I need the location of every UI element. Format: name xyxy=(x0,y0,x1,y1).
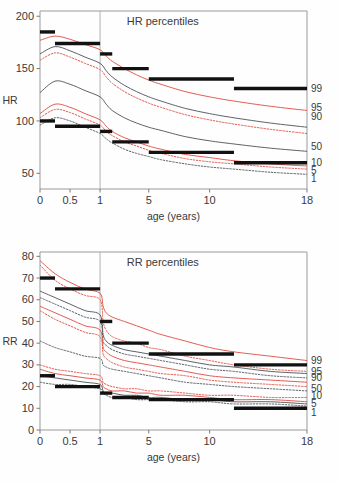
y-tick-label: 50 xyxy=(22,167,34,179)
percentile-curve-5 xyxy=(40,109,307,169)
percentile-label-1: 1 xyxy=(311,173,317,184)
percentile-curve-90 xyxy=(40,53,307,134)
panel-title: RR percentiles xyxy=(127,256,200,268)
panel-title: HR percentiles xyxy=(127,15,200,27)
y-tick-label: 0 xyxy=(28,424,34,436)
y-tick-label: 50 xyxy=(22,315,34,327)
percentile-curve-90 xyxy=(40,291,307,373)
y-tick-label: 150 xyxy=(16,62,34,74)
y-tick-label: 70 xyxy=(22,272,34,284)
x-tick-label: 0.5 xyxy=(62,435,77,447)
percentile-curve-99 xyxy=(40,261,307,361)
percentile-curve-10 xyxy=(40,104,307,166)
plot-frame xyxy=(40,252,307,430)
curves-group xyxy=(40,32,307,174)
x-tick-label: 0 xyxy=(37,194,43,206)
x-tick-label: 5 xyxy=(146,435,152,447)
x-tick-label: 18 xyxy=(301,435,313,447)
x-tick-label: 1 xyxy=(97,435,103,447)
chart-panel-hr: 5010015020000.5151018age (years)HRHR per… xyxy=(0,0,341,241)
chart-panel-rr: 0102030405060708000.5151018age (years)RR… xyxy=(0,241,341,482)
y-axis-title: HR xyxy=(2,94,18,106)
plot-hr: 5010015020000.5151018age (years)HRHR per… xyxy=(0,0,341,241)
x-tick-label: 0 xyxy=(37,435,43,447)
percentile-curve-50 xyxy=(40,81,307,152)
y-tick-label: 100 xyxy=(16,115,34,127)
y-tick-label: 60 xyxy=(22,293,34,305)
figure-root: 5010015020000.5151018age (years)HRHR per… xyxy=(0,0,341,482)
y-tick-label: 30 xyxy=(22,358,34,370)
x-tick-label: 1 xyxy=(97,194,103,206)
percentile-label-1: 1 xyxy=(311,407,317,418)
percentile-label-90: 90 xyxy=(311,111,323,122)
y-tick-label: 40 xyxy=(22,337,34,349)
x-tick-label: 10 xyxy=(203,194,215,206)
y-tick-label: 20 xyxy=(22,380,34,392)
percentile-label-99: 99 xyxy=(311,83,323,94)
x-tick-label: 5 xyxy=(146,194,152,206)
y-tick-label: 200 xyxy=(16,10,34,22)
curves-group xyxy=(40,261,307,409)
y-tick-label: 80 xyxy=(22,250,34,262)
x-tick-label: 18 xyxy=(301,194,313,206)
x-tick-label: 10 xyxy=(203,435,215,447)
plot-rr: 0102030405060708000.5151018age (years)RR… xyxy=(0,241,341,482)
percentile-label-99: 99 xyxy=(311,355,323,366)
percentile-curve-5 xyxy=(40,311,307,387)
x-axis-title: age (years) xyxy=(147,451,200,463)
y-axis-title: RR xyxy=(2,335,18,347)
x-axis-title: age (years) xyxy=(147,210,200,222)
percentile-label-50: 50 xyxy=(311,141,323,152)
y-tick-label: 10 xyxy=(22,402,34,414)
percentile-curve-99 xyxy=(40,36,307,110)
x-tick-label: 0.5 xyxy=(62,194,77,206)
percentile-label-90: 90 xyxy=(311,372,323,383)
